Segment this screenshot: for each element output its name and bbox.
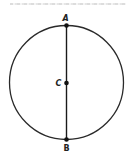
point-c-dot — [64, 81, 69, 86]
point-a-dot — [64, 23, 69, 28]
point-b-dot — [64, 137, 69, 142]
point-a-label: A — [62, 14, 69, 23]
circle-diagram: A C B — [0, 0, 131, 159]
point-c-label: C — [56, 79, 62, 88]
point-b-label: B — [64, 144, 70, 153]
